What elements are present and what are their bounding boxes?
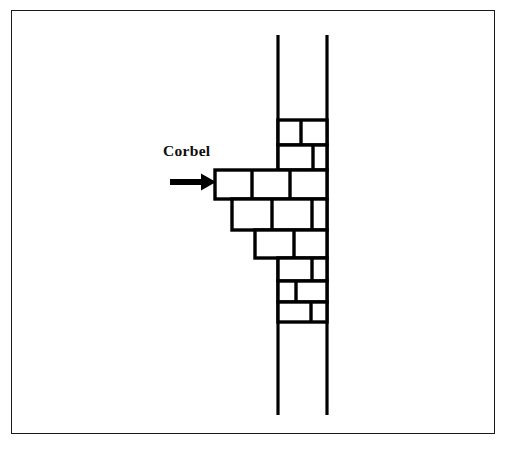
corbel-diagram-figure: Corbel (0, 0, 514, 449)
course-1-top (278, 120, 327, 145)
course-8-bottom (278, 302, 327, 322)
course-6 (278, 258, 327, 281)
masonry-courses (215, 120, 327, 322)
stone-course-outline (278, 258, 327, 281)
stone-course-outline (278, 145, 327, 170)
stone-course-outline (215, 170, 327, 199)
course-5 (255, 230, 327, 258)
stone-course-outline (255, 230, 327, 258)
arrow-right-icon (170, 174, 216, 191)
course-7 (278, 281, 327, 302)
course-3-corbel (215, 170, 327, 199)
corbel-label: Corbel (163, 143, 210, 159)
stone-course-outline (278, 302, 327, 322)
course-4 (232, 199, 327, 230)
diagram-canvas (0, 0, 514, 449)
stone-course-outline (278, 281, 327, 302)
course-2 (278, 145, 327, 170)
